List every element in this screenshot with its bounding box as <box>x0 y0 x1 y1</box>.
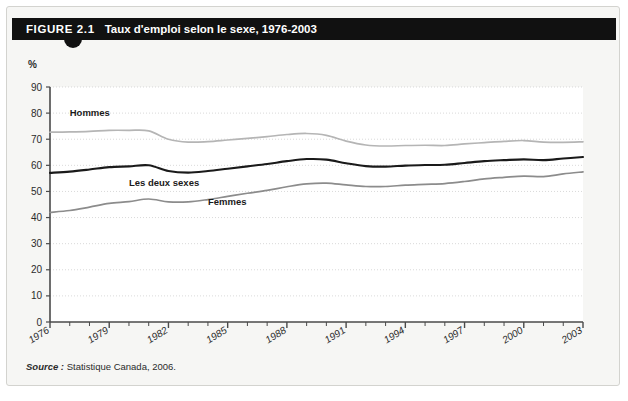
source-lead: Source : <box>26 361 64 372</box>
y-axis-unit-label: % <box>28 59 37 70</box>
figure-title: Taux d'emploi selon le sexe, 1976-2003 <box>105 23 317 35</box>
source-text: Statistique Canada, 2006. <box>67 361 176 372</box>
figure-frame <box>6 6 620 386</box>
figure-number: FIGURE 2.1 <box>26 23 95 35</box>
source-note: Source : Statistique Canada, 2006. <box>26 361 176 372</box>
figure-title-bar: FIGURE 2.1 Taux d'emploi selon le sexe, … <box>12 18 616 40</box>
